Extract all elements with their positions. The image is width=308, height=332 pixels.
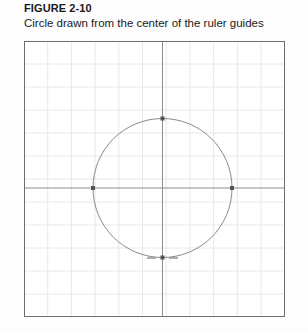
- figure-root: FIGURE 2-10 Circle drawn from the center…: [0, 0, 308, 332]
- figure-caption: FIGURE 2-10 Circle drawn from the center…: [24, 2, 300, 31]
- bottom-anchor[interactable]: [161, 256, 165, 260]
- left-anchor[interactable]: [91, 186, 95, 190]
- artboard-svg[interactable]: [24, 41, 285, 317]
- artboard-canvas[interactable]: [24, 41, 285, 317]
- top-anchor[interactable]: [161, 117, 165, 121]
- figure-number-label: FIGURE 2-10: [24, 2, 300, 15]
- right-anchor[interactable]: [230, 186, 234, 190]
- figure-description-label: Circle drawn from the center of the rule…: [24, 16, 300, 31]
